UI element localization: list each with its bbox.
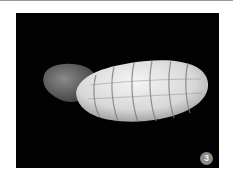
- shell-photo: 3: [16, 13, 219, 168]
- top-rule: [0, 0, 233, 1]
- panel-label-badge: 3: [200, 152, 213, 165]
- shell-illustration: [16, 13, 219, 168]
